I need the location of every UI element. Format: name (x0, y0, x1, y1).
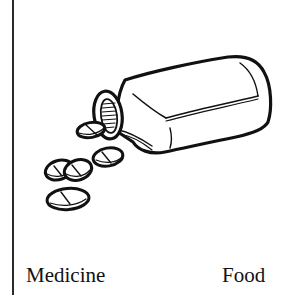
pill (76, 120, 106, 140)
label-medicine: Medicine (26, 262, 105, 288)
pill (46, 187, 90, 212)
medicine-bottle-icon (0, 0, 284, 240)
pill (92, 146, 125, 169)
label-food: Food (222, 262, 265, 288)
